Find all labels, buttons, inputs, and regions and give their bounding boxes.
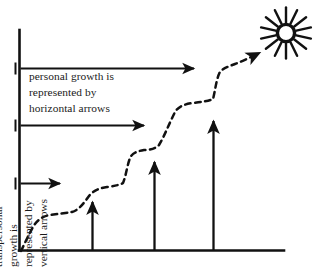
horizontal-caption-line-3: horizontal arrows bbox=[29, 101, 114, 117]
vertical-caption-line-2: growth is bbox=[7, 224, 19, 267]
vertical-arrows-group bbox=[93, 121, 214, 250]
horizontal-caption-line-1: personal growth is bbox=[29, 69, 114, 85]
vertical-caption-line-1: transpersonal bbox=[0, 206, 4, 267]
horizontal-growth-caption: personal growth is represented by horizo… bbox=[29, 69, 114, 116]
vertical-caption-line-4: vertical arrows bbox=[37, 199, 49, 267]
vertical-caption-line-3: represented by bbox=[22, 200, 34, 267]
sun-core bbox=[277, 24, 294, 41]
axes bbox=[19, 30, 284, 251]
sun-icon bbox=[261, 8, 311, 59]
horizontal-caption-line-2: represented by bbox=[29, 85, 114, 101]
diagram-canvas: personal growth is represented by horizo… bbox=[0, 0, 324, 267]
